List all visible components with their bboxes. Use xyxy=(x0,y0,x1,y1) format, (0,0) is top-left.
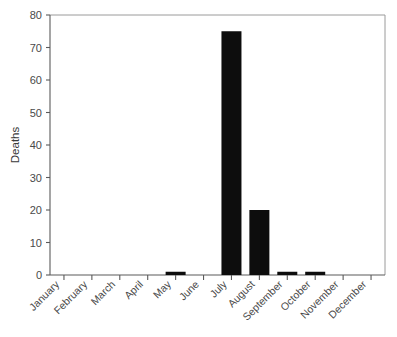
x-tick-label: June xyxy=(176,278,201,303)
x-axis-tick-labels: JanuaryFebruaryMarchAprilMayJuneJulyAugu… xyxy=(26,277,368,322)
y-axis-tick-labels: 01020304050607080 xyxy=(30,9,42,281)
chart-canvas: 01020304050607080 JanuaryFebruaryMarchAp… xyxy=(0,0,397,337)
y-axis-ticks xyxy=(46,15,50,275)
y-tick-label: 30 xyxy=(30,172,42,184)
y-axis-title: Deaths xyxy=(9,127,21,164)
bar xyxy=(221,31,241,275)
y-tick-label: 0 xyxy=(36,269,42,281)
plot-area-background xyxy=(50,15,385,275)
bar xyxy=(305,272,325,275)
y-tick-label: 10 xyxy=(30,237,42,249)
y-tick-label: 50 xyxy=(30,107,42,119)
bar xyxy=(249,210,269,275)
x-tick-label: March xyxy=(88,278,117,307)
x-tick-label: April xyxy=(122,278,145,301)
y-tick-label: 40 xyxy=(30,139,42,151)
bar xyxy=(277,272,297,275)
y-tick-label: 20 xyxy=(30,204,42,216)
y-tick-label: 70 xyxy=(30,42,42,54)
bar-chart: 01020304050607080 JanuaryFebruaryMarchAp… xyxy=(0,0,397,337)
y-tick-label: 80 xyxy=(30,9,42,21)
x-tick-label: May xyxy=(151,277,174,300)
y-tick-label: 60 xyxy=(30,74,42,86)
bar xyxy=(166,272,186,275)
x-tick-label: July xyxy=(207,277,229,299)
